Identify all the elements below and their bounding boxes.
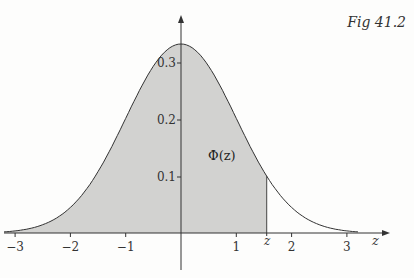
- area-label: Φ(z): [208, 148, 236, 163]
- x-ticks: −3−2−1123: [6, 233, 350, 254]
- shaded-area: [4, 44, 267, 233]
- y-tick-label: 0.3: [157, 56, 176, 70]
- figure: −3−2−1123 0.10.20.3 Φ(z) z z Fig 41.2: [0, 0, 414, 278]
- normal-distribution-plot: −3−2−1123 0.10.20.3 Φ(z) z z: [0, 0, 414, 278]
- y-tick-label: 0.1: [157, 170, 176, 184]
- x-tick-label: −2: [62, 240, 80, 254]
- y-tick-label: 0.2: [157, 113, 176, 127]
- x-tick-label: −1: [117, 240, 135, 254]
- x-axis-label: z: [371, 233, 379, 248]
- x-tick-label: −3: [6, 240, 24, 254]
- y-axis-arrow-icon: [178, 15, 184, 23]
- x-tick-label: 2: [288, 240, 296, 254]
- z-marker-label: z: [263, 234, 271, 248]
- x-axis-arrow-icon: [382, 230, 390, 236]
- figure-caption: Fig 41.2: [347, 14, 406, 30]
- x-tick-label: 1: [232, 240, 240, 254]
- x-tick-label: 3: [343, 240, 351, 254]
